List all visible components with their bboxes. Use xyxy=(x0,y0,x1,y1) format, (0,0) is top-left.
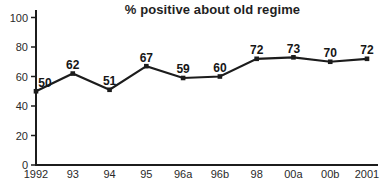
data-label: 70 xyxy=(324,46,338,60)
y-tick-label: 100 xyxy=(10,12,28,24)
y-tick-label: 40 xyxy=(16,100,28,112)
x-tick-label: 2001 xyxy=(355,168,379,180)
data-label: 50 xyxy=(38,76,52,90)
x-tick-label: 93 xyxy=(67,168,79,180)
data-label: 67 xyxy=(140,51,154,65)
x-tick-label: 1992 xyxy=(24,168,48,180)
data-label: 73 xyxy=(287,42,301,56)
y-tick-label: 60 xyxy=(16,71,28,83)
line-chart: % positive about old regime 020406080100… xyxy=(0,0,389,196)
data-label: 59 xyxy=(176,62,190,76)
x-tick-label: 94 xyxy=(103,168,115,180)
data-label: 51 xyxy=(103,74,117,88)
data-line xyxy=(36,57,367,91)
plot-svg: 020406080100199293949596a96b9800a00b2001… xyxy=(0,0,389,196)
data-label: 62 xyxy=(66,58,80,72)
data-label: 72 xyxy=(250,43,264,57)
x-tick-label: 00a xyxy=(284,168,303,180)
y-tick-label: 20 xyxy=(16,130,28,142)
x-tick-label: 96b xyxy=(211,168,229,180)
x-tick-label: 96a xyxy=(174,168,193,180)
y-tick-label: 80 xyxy=(16,41,28,53)
x-tick-label: 95 xyxy=(140,168,152,180)
x-tick-label: 00b xyxy=(321,168,339,180)
data-label: 72 xyxy=(360,43,374,57)
data-label: 60 xyxy=(213,61,227,75)
x-tick-label: 98 xyxy=(251,168,263,180)
